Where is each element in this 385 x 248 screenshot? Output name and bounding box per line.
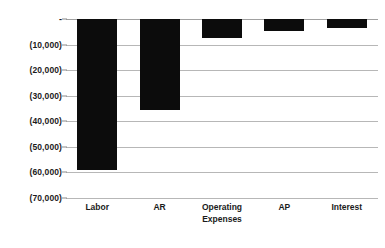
y-tick-mark-10000 xyxy=(62,44,67,45)
bar-labor[interactable] xyxy=(77,19,117,170)
bar-slot-interest xyxy=(316,19,378,198)
y-tick-label-40000: (40,000) xyxy=(0,117,62,126)
y-tick-label-10000: (10,000) xyxy=(0,40,62,49)
y-tick-label-70000: (70,000) xyxy=(0,194,62,203)
x-axis: Labor AR Operating Expenses AP Interest xyxy=(66,202,378,246)
y-tick-label-50000: (50,000) xyxy=(0,143,62,152)
bar-operating-expenses[interactable] xyxy=(202,19,242,38)
y-tick-label-30000: (30,000) xyxy=(0,91,62,100)
y-tick-mark-30000 xyxy=(62,95,67,96)
gridline-70000 xyxy=(66,198,378,199)
bar-slot-ap xyxy=(253,19,315,198)
y-tick-label-0: - xyxy=(0,15,62,24)
bar-slot-labor xyxy=(66,19,128,198)
y-tick-label-20000: (20,000) xyxy=(0,66,62,75)
bars-layer xyxy=(66,19,378,198)
bar-chart: - (10,000) (20,000) (30,000) (40,000) (5… xyxy=(0,0,385,248)
y-tick-mark-20000 xyxy=(62,70,67,71)
y-tick-mark-70000 xyxy=(62,198,67,199)
y-tick-mark-50000 xyxy=(62,146,67,147)
bar-interest[interactable] xyxy=(327,19,367,28)
y-tick-mark-0 xyxy=(62,19,67,20)
x-tick-label-ap: AP xyxy=(253,202,315,214)
y-tick-label-60000: (60,000) xyxy=(0,168,62,177)
x-tick-label-ar: AR xyxy=(128,202,190,214)
y-tick-mark-60000 xyxy=(62,172,67,173)
bar-ap[interactable] xyxy=(264,19,304,31)
bar-slot-operating-expenses xyxy=(191,19,253,198)
bar-slot-ar xyxy=(128,19,190,198)
x-tick-label-labor: Labor xyxy=(66,202,128,214)
x-tick-label-interest: Interest xyxy=(316,202,378,214)
y-tick-mark-40000 xyxy=(62,121,67,122)
y-axis: - (10,000) (20,000) (30,000) (40,000) (5… xyxy=(0,19,62,198)
bar-ar[interactable] xyxy=(140,19,180,110)
x-tick-label-operating-expenses: Operating Expenses xyxy=(191,202,253,225)
